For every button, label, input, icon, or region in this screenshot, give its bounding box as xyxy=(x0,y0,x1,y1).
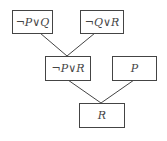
node-r: R xyxy=(79,103,125,128)
node-not-q-or-r: ¬Q∨R xyxy=(80,10,124,34)
node-label: P xyxy=(131,62,138,75)
node-label: R xyxy=(98,109,106,122)
edge-n1-n3 xyxy=(40,33,67,56)
node-label: ¬P∨Q xyxy=(16,16,50,29)
edge-n3-n5 xyxy=(68,80,101,103)
node-not-p-or-q: ¬P∨Q xyxy=(12,10,53,34)
edge-n4-n5 xyxy=(101,80,134,103)
edge-n2-n3 xyxy=(67,33,95,56)
node-label: ¬P∨R xyxy=(52,62,85,75)
node-not-p-or-r: ¬P∨R xyxy=(45,56,91,81)
node-label: ¬Q∨R xyxy=(85,16,120,29)
node-p: P xyxy=(112,56,157,81)
